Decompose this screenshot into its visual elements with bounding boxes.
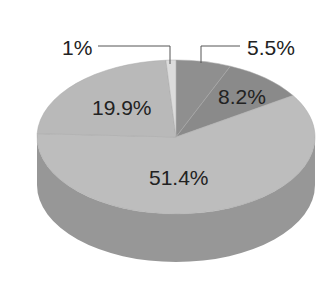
label-5-5pct: 5.5%: [247, 37, 295, 58]
leader-line-5-5pct: [201, 46, 240, 63]
label-19-9pct: 19.9%: [92, 97, 152, 118]
label-51-4pct: 51.4%: [149, 167, 209, 188]
label-8-2pct: 8.2%: [218, 86, 266, 107]
label-1pct: 1%: [62, 37, 92, 58]
pie-slices: [37, 60, 315, 214]
